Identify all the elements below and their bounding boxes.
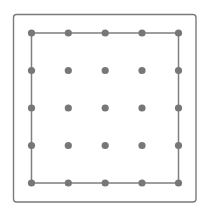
peg-dot-r0-c2	[102, 29, 109, 36]
peg-dot-r3-c1	[65, 142, 72, 149]
peg-dot-r0-c4	[175, 29, 182, 36]
peg-dot-r1-c1	[65, 67, 72, 74]
peg-dot-r4-c3	[138, 179, 145, 186]
peg-grid	[28, 29, 182, 186]
peg-dot-r4-c4	[175, 179, 182, 186]
geoboard-canvas	[0, 0, 210, 213]
peg-dot-r2-c3	[138, 104, 145, 111]
peg-dot-r2-c1	[65, 104, 72, 111]
peg-dot-r1-c2	[102, 67, 109, 74]
peg-dot-r4-c2	[102, 179, 109, 186]
peg-dot-r4-c0	[28, 179, 35, 186]
peg-dot-r3-c0	[28, 142, 35, 149]
peg-dot-r2-c4	[175, 104, 182, 111]
peg-dot-r0-c0	[28, 29, 35, 36]
peg-dot-r2-c0	[28, 104, 35, 111]
geoboard-diagram	[0, 0, 210, 213]
peg-dot-r2-c2	[102, 104, 109, 111]
peg-dot-r3-c2	[102, 142, 109, 149]
peg-dot-r3-c4	[175, 142, 182, 149]
peg-dot-r1-c3	[138, 67, 145, 74]
peg-dot-r1-c4	[175, 67, 182, 74]
peg-dot-r0-c1	[65, 29, 72, 36]
peg-dot-r1-c0	[28, 67, 35, 74]
peg-dot-r0-c3	[138, 29, 145, 36]
peg-dot-r4-c1	[65, 179, 72, 186]
peg-dot-r3-c3	[138, 142, 145, 149]
